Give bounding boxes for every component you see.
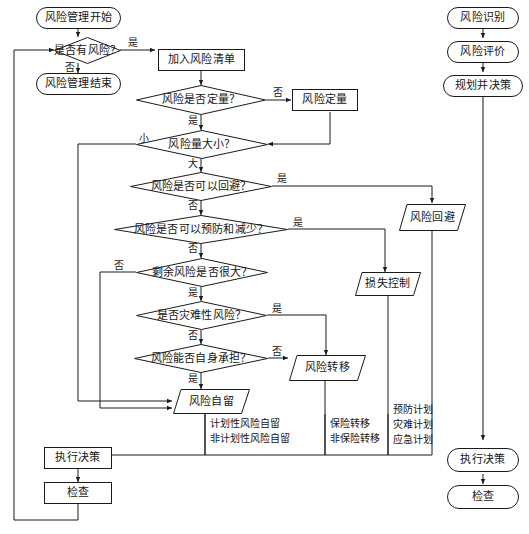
edge-label-has-risk-no: 否 bbox=[65, 63, 75, 73]
node-execute-decision-right-label: 执行决策 bbox=[460, 454, 505, 466]
node-risk-transfer[interactable]: 风险转移 bbox=[289, 355, 366, 381]
edge-label-residual-yes: 是 bbox=[188, 288, 198, 298]
note-control-line1: 预防计划 bbox=[393, 404, 433, 417]
node-add-to-risk-list-label: 加入风险清单 bbox=[168, 54, 236, 66]
node-start[interactable]: 风险管理开始 bbox=[36, 7, 121, 29]
note-retention-line2: 非计划性风险自留 bbox=[210, 433, 290, 446]
node-check-left-label: 检查 bbox=[67, 487, 90, 499]
node-loss-control[interactable]: 损失控制 bbox=[355, 272, 421, 296]
node-risk-avoidance[interactable]: 风险回避 bbox=[399, 204, 466, 231]
note-control-line3: 应急计划 bbox=[393, 434, 433, 447]
node-can-avoid-label: 风险是否可以回避？ bbox=[151, 181, 252, 193]
edge-label-catastrophic-yes: 是 bbox=[272, 304, 282, 314]
node-residual-risk-large[interactable]: 剩余风险是否很大？ bbox=[136, 258, 268, 287]
node-is-catastrophic[interactable]: 是否灾难性风险？ bbox=[136, 301, 267, 330]
node-is-quantified-label: 风险是否定量？ bbox=[162, 94, 240, 106]
node-can-self-bear[interactable]: 风险能否自身承担？ bbox=[134, 344, 268, 373]
edge-label-avoid-yes: 是 bbox=[277, 174, 287, 184]
node-start-label: 风险管理开始 bbox=[45, 12, 113, 24]
node-risk-avoidance-label: 风险回避 bbox=[410, 212, 455, 224]
note-control-line2: 灾难计划 bbox=[393, 419, 433, 432]
edge-label-prevent-yes: 是 bbox=[293, 218, 303, 228]
node-risk-retention[interactable]: 风险自留 bbox=[173, 389, 250, 414]
edge-label-avoid-no: 否 bbox=[188, 201, 198, 211]
edge-label-residual-no: 否 bbox=[114, 261, 124, 271]
edge-label-size-small: 小 bbox=[139, 134, 149, 144]
flowchart-canvas: 风险管理开始 是否有风险？ 风险管理结束 加入风险清单 风险是否定量？ 风险定量… bbox=[0, 0, 529, 534]
node-end-label: 风险管理结束 bbox=[45, 78, 113, 90]
node-risk-magnitude-label: 风险量大小？ bbox=[168, 139, 235, 151]
node-plan-and-decide-label: 规划并决策 bbox=[455, 80, 512, 92]
edge-label-has-risk-yes: 是 bbox=[128, 38, 138, 48]
note-transfer-line1: 保险转移 bbox=[330, 418, 370, 431]
node-risk-retention-label: 风险自留 bbox=[189, 396, 234, 408]
node-residual-risk-large-label: 剩余风险是否很大？ bbox=[152, 267, 253, 279]
node-has-risk[interactable]: 是否有风险？ bbox=[54, 37, 121, 64]
node-risk-identification-label: 风险识别 bbox=[460, 12, 505, 24]
node-check-right[interactable]: 检查 bbox=[447, 485, 519, 509]
node-check-left[interactable]: 检查 bbox=[44, 482, 112, 504]
node-execute-decision-left-label: 执行决策 bbox=[55, 452, 100, 464]
node-loss-control-label: 损失控制 bbox=[365, 278, 410, 290]
edge-label-prevent-no: 否 bbox=[188, 244, 198, 254]
node-can-avoid[interactable]: 风险是否可以回避？ bbox=[130, 172, 272, 201]
edge-label-is-quant-yes: 是 bbox=[188, 116, 198, 126]
edge-label-size-large: 大 bbox=[188, 159, 198, 169]
node-can-prevent-reduce[interactable]: 风险是否可以预防和减少？ bbox=[114, 215, 288, 244]
node-can-prevent-reduce-label: 风险是否可以预防和减少？ bbox=[134, 224, 268, 236]
node-is-catastrophic-label: 是否灾难性风险？ bbox=[157, 310, 247, 322]
edge-label-catastrophic-no: 否 bbox=[188, 331, 198, 341]
node-risk-magnitude[interactable]: 风险量大小？ bbox=[136, 130, 268, 159]
node-quantify-risk-label: 风险定量 bbox=[302, 94, 347, 106]
edge-label-is-quant-no: 否 bbox=[273, 88, 283, 98]
node-can-self-bear-label: 风险能否自身承担？ bbox=[151, 353, 252, 365]
node-add-to-risk-list[interactable]: 加入风险清单 bbox=[158, 49, 245, 71]
node-risk-identification[interactable]: 风险识别 bbox=[447, 7, 519, 29]
node-risk-evaluation[interactable]: 风险评价 bbox=[447, 41, 519, 63]
note-transfer-line2: 非保险转移 bbox=[330, 433, 380, 446]
edge-label-bear-no: 否 bbox=[272, 347, 282, 357]
node-plan-and-decide[interactable]: 规划并决策 bbox=[443, 75, 523, 97]
node-is-quantified[interactable]: 风险是否定量？ bbox=[136, 85, 266, 115]
node-execute-decision-right[interactable]: 执行决策 bbox=[447, 448, 519, 472]
node-end[interactable]: 风险管理结束 bbox=[36, 73, 121, 95]
node-check-right-label: 检查 bbox=[472, 491, 495, 503]
edge-label-bear-yes: 是 bbox=[188, 374, 198, 384]
node-execute-decision-left[interactable]: 执行决策 bbox=[44, 447, 112, 469]
node-risk-evaluation-label: 风险评价 bbox=[460, 46, 505, 58]
node-risk-transfer-label: 风险转移 bbox=[305, 362, 350, 374]
node-has-risk-label: 是否有风险？ bbox=[54, 45, 121, 57]
node-quantify-risk[interactable]: 风险定量 bbox=[292, 89, 358, 111]
note-retention-line1: 计划性风险自留 bbox=[210, 418, 280, 431]
